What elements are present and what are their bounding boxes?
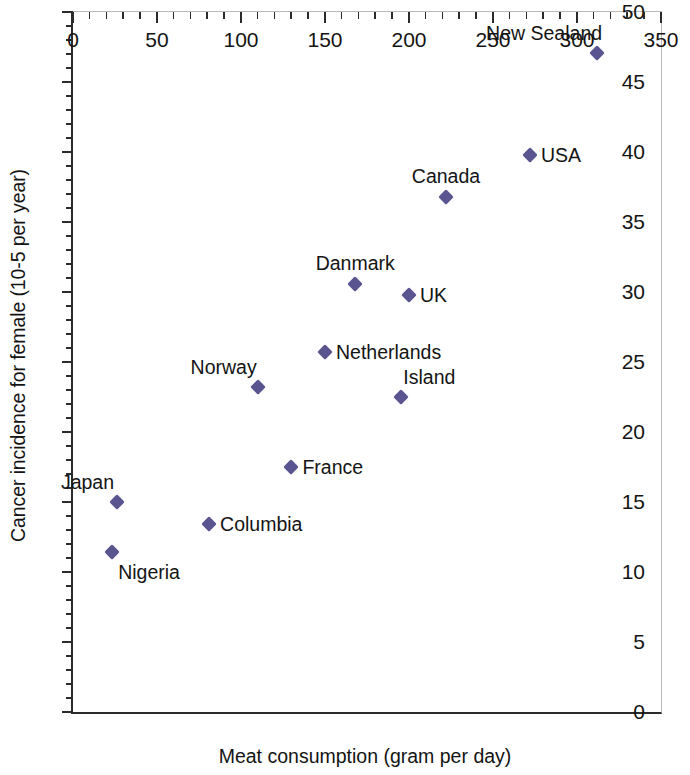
x-axis-minor-tick (190, 12, 192, 19)
x-axis-major-tick (408, 12, 410, 23)
plot-area: 05101520253035404550 0501001502002503003… (71, 11, 662, 714)
y-axis-minor-tick (66, 347, 73, 349)
y-axis-major-tick (62, 151, 73, 153)
x-axis-tick-label: 100 (223, 28, 258, 52)
x-axis-minor-tick (475, 12, 477, 19)
data-point-marker[interactable] (284, 459, 300, 475)
y-axis-minor-tick (66, 389, 73, 391)
data-point-marker[interactable] (438, 189, 454, 205)
data-point-marker[interactable] (250, 379, 266, 395)
y-axis-minor-tick (66, 375, 73, 377)
y-axis-minor-tick (66, 207, 73, 209)
x-axis-major-tick (156, 12, 158, 23)
x-axis-major-tick (240, 12, 242, 23)
data-point-marker[interactable] (104, 545, 120, 561)
x-axis-minor-tick (526, 12, 528, 19)
y-axis-minor-tick (66, 529, 73, 531)
data-point-label: Norway (191, 356, 257, 379)
x-axis-tick-label: 350 (643, 28, 678, 52)
data-point-label: Danmark (316, 252, 395, 275)
data-point-marker[interactable] (393, 389, 409, 405)
y-axis-minor-tick (66, 599, 73, 601)
x-axis-title: Meat consumption (gram per day) (71, 745, 659, 768)
y-axis-minor-tick (66, 543, 73, 545)
data-point-label: Canada (412, 165, 480, 188)
y-axis-tick-label: 40 (622, 140, 645, 164)
x-axis-minor-tick (610, 12, 612, 19)
data-point-label: Japan (61, 471, 114, 494)
y-axis-minor-tick (66, 627, 73, 629)
y-axis-minor-tick (66, 319, 73, 321)
x-axis-title-text: Meat consumption (gram per day) (219, 745, 512, 767)
x-axis-minor-tick (257, 12, 259, 19)
y-axis-minor-tick (66, 459, 73, 461)
y-axis-minor-tick (66, 249, 73, 251)
y-axis-minor-tick (66, 585, 73, 587)
x-axis-minor-tick (139, 12, 141, 19)
data-point-label: Island (403, 366, 455, 389)
data-point-marker[interactable] (522, 147, 538, 163)
y-axis-minor-tick (66, 277, 73, 279)
x-axis-minor-tick (290, 12, 292, 19)
x-axis-minor-tick (106, 12, 108, 19)
y-axis-minor-tick (66, 53, 73, 55)
y-axis-minor-tick (66, 305, 73, 307)
y-axis-minor-tick (66, 235, 73, 237)
y-axis-title: Cancer incidence for female (10-5 per ye… (0, 0, 36, 711)
y-axis-tick-label: 20 (622, 420, 645, 444)
y-axis-tick-label: 35 (622, 210, 645, 234)
x-axis-tick-label: 150 (307, 28, 342, 52)
x-axis-minor-tick (122, 12, 124, 19)
scatter-chart-figure: Cancer incidence for female (10-5 per ye… (0, 0, 690, 775)
x-axis-minor-tick (358, 12, 360, 19)
x-axis-minor-tick (425, 12, 427, 19)
y-axis-minor-tick (66, 263, 73, 265)
y-axis-minor-tick (66, 515, 73, 517)
y-axis-tick-label: 30 (622, 280, 645, 304)
x-axis-minor-tick (89, 12, 91, 19)
y-axis-tick-label: 0 (633, 700, 645, 724)
y-axis-major-tick (62, 571, 73, 573)
y-axis-minor-tick (66, 165, 73, 167)
data-point-label: New Sealand (486, 22, 602, 45)
x-axis-minor-tick (173, 12, 175, 19)
x-axis-minor-tick (442, 12, 444, 19)
y-axis-minor-tick (66, 683, 73, 685)
data-point-label: USA (541, 143, 581, 166)
y-axis-minor-tick (66, 137, 73, 139)
data-point-marker[interactable] (347, 276, 363, 292)
y-axis-tick-label: 25 (622, 350, 645, 374)
y-axis-minor-tick (66, 123, 73, 125)
data-point-marker[interactable] (201, 517, 217, 533)
data-point-marker[interactable] (317, 344, 333, 360)
y-axis-minor-tick (66, 445, 73, 447)
y-axis-tick-label: 15 (622, 490, 645, 514)
x-axis-tick-label: 200 (391, 28, 426, 52)
x-axis-minor-tick (542, 12, 544, 19)
y-axis-minor-tick (66, 25, 73, 27)
x-axis-major-tick (660, 12, 662, 23)
y-axis-major-tick (62, 711, 73, 713)
y-axis-minor-tick (66, 179, 73, 181)
x-axis-tick-label: 0 (67, 28, 79, 52)
y-axis-minor-tick (66, 557, 73, 559)
y-axis-minor-tick (66, 95, 73, 97)
data-point-marker[interactable] (401, 287, 417, 303)
x-axis-minor-tick (509, 12, 511, 19)
x-axis-minor-tick (341, 12, 343, 19)
y-axis-major-tick (62, 81, 73, 83)
data-point-marker[interactable] (109, 494, 125, 510)
data-point-label: Nigeria (118, 561, 180, 584)
x-axis-minor-tick (626, 12, 628, 19)
y-axis-minor-tick (66, 417, 73, 419)
y-axis-minor-tick (66, 109, 73, 111)
y-axis-major-tick (62, 431, 73, 433)
x-axis-minor-tick (391, 12, 393, 19)
data-point-label: Columbia (220, 513, 302, 536)
x-axis-minor-tick (458, 12, 460, 19)
x-axis-minor-tick (643, 12, 645, 19)
y-axis-minor-tick (66, 697, 73, 699)
data-point-label: France (302, 456, 363, 479)
y-axis-major-tick (62, 641, 73, 643)
x-axis-minor-tick (206, 12, 208, 19)
